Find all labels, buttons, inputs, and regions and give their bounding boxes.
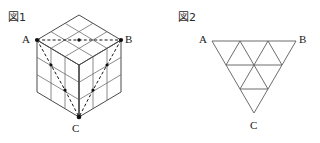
triangle-outline [212, 41, 296, 113]
figure-2-vertex-a: A [199, 33, 207, 45]
figure-2-vertex-c: C [250, 119, 257, 131]
figure-page: 図1 [0, 0, 320, 143]
figure-2-vertex-b: B [299, 33, 306, 45]
figure-2-drawing [0, 0, 320, 143]
triangle-horizontal-dividers [226, 65, 282, 89]
